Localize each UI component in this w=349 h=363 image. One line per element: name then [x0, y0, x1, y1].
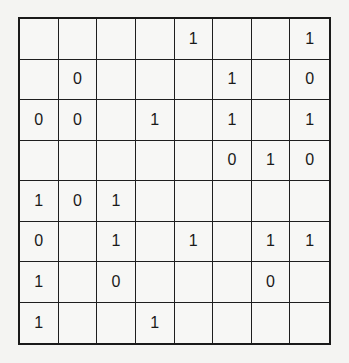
grid-cell-r2-c5: 1: [213, 100, 252, 141]
grid-cell-r7-c2[interactable]: [97, 303, 136, 344]
grid-cell-r7-c0: 1: [20, 303, 59, 344]
grid-cell-r4-c2: 1: [97, 181, 136, 222]
grid-cell-r0-c4: 1: [175, 19, 214, 60]
grid-cell-r0-c1[interactable]: [59, 19, 98, 60]
grid-cell-r5-c0: 0: [20, 222, 59, 263]
grid-cell-r5-c3[interactable]: [136, 222, 175, 263]
grid-cell-r0-c3[interactable]: [136, 19, 175, 60]
grid-cell-r6-c4[interactable]: [175, 262, 214, 303]
grid-cell-r1-c6[interactable]: [252, 60, 291, 101]
grid-cell-r4-c5[interactable]: [213, 181, 252, 222]
grid-cell-r3-c2[interactable]: [97, 141, 136, 182]
grid-cell-r3-c5: 0: [213, 141, 252, 182]
grid-cell-r5-c7: 1: [290, 222, 329, 263]
grid-cell-r4-c1: 0: [59, 181, 98, 222]
grid-cell-r4-c4[interactable]: [175, 181, 214, 222]
grid-cell-r5-c2: 1: [97, 222, 136, 263]
grid-cell-r2-c2[interactable]: [97, 100, 136, 141]
grid-cell-r5-c1[interactable]: [59, 222, 98, 263]
grid-cell-r4-c0: 1: [20, 181, 59, 222]
grid-cell-r6-c1[interactable]: [59, 262, 98, 303]
grid-cell-r0-c2[interactable]: [97, 19, 136, 60]
grid-cell-r6-c3[interactable]: [136, 262, 175, 303]
grid-cell-r1-c1: 0: [59, 60, 98, 101]
grid-cell-r6-c6: 0: [252, 262, 291, 303]
grid-cell-r7-c3: 1: [136, 303, 175, 344]
grid-cell-r2-c0: 0: [20, 100, 59, 141]
grid-cell-r7-c1[interactable]: [59, 303, 98, 344]
grid-cell-r6-c0: 1: [20, 262, 59, 303]
grid-cell-r3-c0[interactable]: [20, 141, 59, 182]
grid-cell-r6-c2: 0: [97, 262, 136, 303]
grid-cell-r7-c7[interactable]: [290, 303, 329, 344]
grid-cell-r1-c4[interactable]: [175, 60, 214, 101]
grid-cell-r7-c5[interactable]: [213, 303, 252, 344]
grid-cell-r3-c7: 0: [290, 141, 329, 182]
grid-cell-r2-c1: 0: [59, 100, 98, 141]
grid-cell-r3-c6: 1: [252, 141, 291, 182]
grid-cell-r3-c4[interactable]: [175, 141, 214, 182]
grid-cell-r2-c7: 1: [290, 100, 329, 141]
grid-cell-r0-c0[interactable]: [20, 19, 59, 60]
grid-cell-r6-c7[interactable]: [290, 262, 329, 303]
grid-cell-r5-c5[interactable]: [213, 222, 252, 263]
grid-cell-r2-c6[interactable]: [252, 100, 291, 141]
grid-cell-r7-c6[interactable]: [252, 303, 291, 344]
grid-cell-r2-c3: 1: [136, 100, 175, 141]
puzzle-board: 11010001110101010111110011: [18, 17, 331, 345]
grid-cell-r0-c5[interactable]: [213, 19, 252, 60]
grid-cell-r0-c6[interactable]: [252, 19, 291, 60]
grid-cell-r4-c7[interactable]: [290, 181, 329, 222]
grid-cell-r1-c5: 1: [213, 60, 252, 101]
grid-cell-r4-c6[interactable]: [252, 181, 291, 222]
grid-cell-r7-c4[interactable]: [175, 303, 214, 344]
grid-cell-r1-c3[interactable]: [136, 60, 175, 101]
grid-cell-r2-c4[interactable]: [175, 100, 214, 141]
grid-cell-r5-c6: 1: [252, 222, 291, 263]
grid-cell-r0-c7: 1: [290, 19, 329, 60]
grid-cell-r3-c1[interactable]: [59, 141, 98, 182]
grid-cell-r1-c2[interactable]: [97, 60, 136, 101]
grid-cell-r1-c7: 0: [290, 60, 329, 101]
grid-cell-r4-c3[interactable]: [136, 181, 175, 222]
grid-cell-r1-c0[interactable]: [20, 60, 59, 101]
grid-cell-r5-c4: 1: [175, 222, 214, 263]
grid-cell-r3-c3[interactable]: [136, 141, 175, 182]
grid-cell-r6-c5[interactable]: [213, 262, 252, 303]
